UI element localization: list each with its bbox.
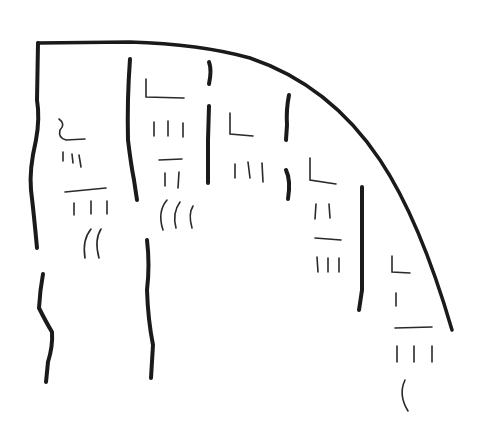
divider-1-lower: [147, 240, 153, 378]
left-boundary-upper: [31, 43, 39, 248]
column-5-glyphs: [392, 256, 432, 411]
column-1-glyphs: [59, 119, 107, 258]
divider-1-upper: [128, 59, 137, 200]
divider-3-lower: [286, 170, 289, 199]
column-3-glyphs: [230, 113, 263, 182]
divider-4: [359, 187, 362, 310]
divider-3-upper: [286, 95, 289, 140]
sketch-diagram: [0, 0, 478, 438]
column-4-glyphs: [310, 158, 341, 272]
column-2-glyphs: [146, 79, 193, 230]
divider-2-lower: [208, 106, 209, 183]
left-boundary-lower: [39, 274, 52, 382]
outer-arc: [38, 42, 452, 330]
divider-2-upper: [209, 62, 211, 84]
